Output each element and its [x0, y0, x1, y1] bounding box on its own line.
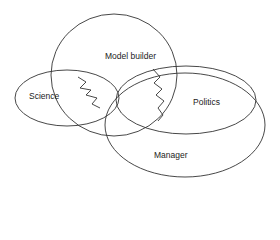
ellipse-manager: [105, 73, 265, 177]
label-politics: Politics: [193, 97, 220, 107]
zigzag-science-model: [78, 77, 100, 108]
label-model-builder: Model builder: [105, 51, 156, 61]
label-manager: Manager: [154, 150, 188, 160]
label-science: Science: [29, 91, 59, 101]
ellipse-politics: [116, 66, 256, 134]
